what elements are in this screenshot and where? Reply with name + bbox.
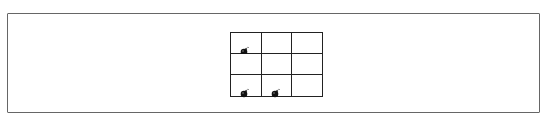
board-cell-r0-c1[interactable] (262, 33, 292, 54)
board-cell-r0-c0[interactable] (231, 33, 262, 54)
board-cell-r2-c2[interactable] (292, 75, 323, 97)
board-cell-r0-c2[interactable] (292, 33, 323, 54)
board-cell-r1-c0[interactable] (231, 54, 262, 75)
board-cell-r2-c0[interactable] (231, 75, 262, 97)
bomb-icon (240, 41, 250, 51)
board-cell-r1-c1[interactable] (262, 54, 292, 75)
bomb-icon (271, 83, 281, 93)
board-cell-r2-c1[interactable] (262, 75, 292, 97)
board-cell-r1-c2[interactable] (292, 54, 323, 75)
game-board (230, 32, 323, 97)
bomb-icon (240, 83, 250, 93)
